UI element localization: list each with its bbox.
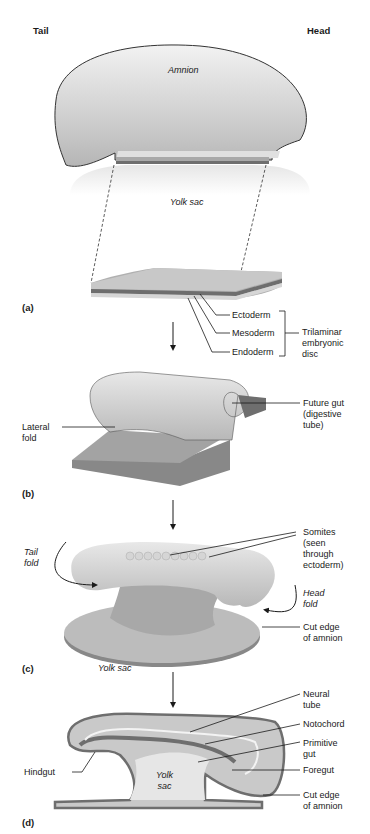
neural-tube-label: Neural tube (303, 689, 330, 711)
yolk-sac-label-c: Yolk sac (98, 663, 132, 674)
panel-a-label: (a) (22, 302, 34, 313)
mesoderm-label: Mesoderm (232, 328, 275, 339)
tail-fold-label: Tail fold (24, 547, 39, 569)
foregut-label: Foregut (303, 765, 334, 776)
amnion-label: Amnion (168, 65, 199, 76)
endoderm-label: Endoderm (232, 347, 274, 358)
somites-label: Somites (seen through ectoderm) (303, 527, 344, 571)
orientation-head-label: Head (307, 25, 330, 36)
lateral-fold-label: Lateral fold (22, 422, 50, 444)
hindgut-label: Hindgut (24, 767, 55, 778)
yolk-sac-label-d: Yolk sac (156, 770, 173, 792)
future-gut-label: Future gut (digestive tube) (303, 398, 344, 431)
panel-c-label: (c) (22, 663, 34, 674)
cut-edge-label-c: Cut edge of amnion (303, 622, 343, 644)
amnion-shape (55, 45, 306, 166)
ectoderm-label: Ectoderm (232, 310, 271, 321)
cut-edge-label-d: Cut edge of amnion (303, 790, 343, 812)
panel-b-label: (b) (22, 488, 34, 499)
head-fold-label: Head fold (303, 588, 325, 610)
notochord-label: Notochord (303, 719, 345, 730)
trilaminar-disc-label: Trilaminar embryonic disc (302, 327, 344, 360)
primitive-gut-label: Primitive gut (303, 738, 338, 760)
yolk-sac-label-a: Yolk sac (170, 197, 204, 208)
orientation-tail-label: Tail (33, 25, 49, 36)
panel-d-label: (d) (22, 817, 34, 828)
